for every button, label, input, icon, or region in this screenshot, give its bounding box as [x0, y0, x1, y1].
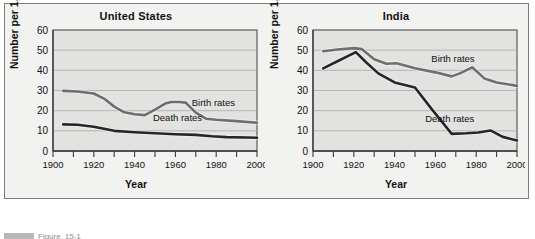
y-tick-us-30: 30 — [37, 85, 49, 96]
x-tick-india-1900: 1900 — [302, 159, 323, 170]
y-tick-india-20: 20 — [297, 105, 309, 116]
y-tick-us-60: 60 — [37, 25, 49, 36]
y-axis-label-us: Number per 1,000 — [8, 55, 20, 69]
y-tick-india-30: 30 — [297, 85, 309, 96]
y-tick-india-0: 0 — [302, 146, 308, 157]
x-tick-us-1920: 1920 — [83, 159, 104, 170]
y-tick-india-50: 50 — [297, 45, 309, 56]
x-tick-us-2000: 2000 — [246, 159, 265, 170]
y-tick-us-20: 20 — [37, 105, 49, 116]
x-tick-us-1940: 1940 — [124, 159, 145, 170]
x-tick-us-1980: 1980 — [206, 159, 227, 170]
series-label-us-1: Death rates — [153, 112, 202, 123]
x-tick-us-1960: 1960 — [165, 159, 186, 170]
chart-india: India Number per 1,000 01020304050601900… — [265, 4, 527, 200]
plot-area-india: 0102030405060190019201940196019802000Bir… — [287, 24, 525, 174]
chart-title-us: United States — [5, 10, 267, 22]
x-tick-india-1940: 1940 — [384, 159, 405, 170]
x-tick-india-1960: 1960 — [425, 159, 446, 170]
x-axis-label-india: Year — [265, 178, 527, 190]
y-tick-us-50: 50 — [37, 45, 49, 56]
y-tick-us-0: 0 — [42, 146, 48, 157]
y-tick-india-10: 10 — [297, 125, 309, 136]
x-tick-india-2000: 2000 — [506, 159, 525, 170]
series-label-india-1: Death rates — [425, 113, 474, 124]
plot-area-us: 0102030405060190019201940196019802000Bir… — [27, 24, 265, 174]
y-tick-india-60: 60 — [297, 25, 309, 36]
y-tick-india-40: 40 — [297, 65, 309, 76]
x-tick-us-1900: 1900 — [42, 159, 63, 170]
series-label-us-0: Birth rates — [192, 97, 236, 108]
x-axis-label-us: Year — [5, 178, 267, 190]
x-tick-india-1980: 1980 — [466, 159, 487, 170]
x-tick-india-1920: 1920 — [343, 159, 364, 170]
figure-panel: United States Number per 1,000 010203040… — [4, 3, 529, 199]
series-label-india-0: Birth rates — [431, 53, 475, 64]
chart-title-india: India — [265, 10, 527, 22]
y-tick-us-40: 40 — [37, 65, 49, 76]
y-tick-us-10: 10 — [37, 125, 49, 136]
chart-united-states: United States Number per 1,000 010203040… — [5, 4, 267, 200]
y-axis-label-india: Number per 1,000 — [268, 55, 280, 69]
